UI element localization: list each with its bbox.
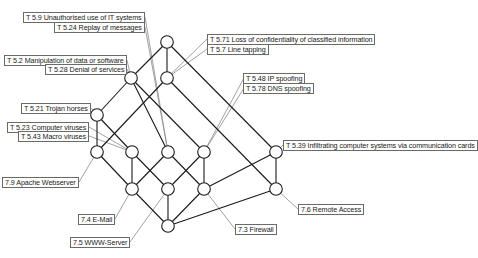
component-leader-line: [79, 157, 94, 182]
lattice-node: [162, 220, 175, 233]
lattice-node: [198, 183, 211, 196]
lattice-node: [126, 183, 139, 196]
lattice-node: [270, 183, 283, 196]
lattice-node: [161, 36, 174, 49]
lattice-node: [162, 146, 175, 159]
lattice-node: [91, 146, 104, 159]
lattice-edge: [97, 152, 132, 189]
threat-label: T 5.7 Line tapping: [207, 44, 269, 55]
component-label: 7.4 E-Mail: [78, 214, 115, 225]
threat-label: T 5.43 Macro viruses: [18, 131, 89, 142]
lattice-node: [162, 183, 175, 196]
lattice-edge: [167, 42, 276, 152]
component-label: 7.9 Apache Webserver: [2, 177, 79, 188]
component-leader-line: [115, 194, 129, 219]
lattice-edge: [97, 78, 167, 152]
component-leader-line: [130, 194, 164, 242]
threat-label: T 5.39 Infiltrating computer systems via…: [283, 140, 478, 151]
component-label: 7.5 WWW-Server: [70, 237, 130, 248]
lattice-edge: [97, 78, 131, 115]
lattice-node: [126, 146, 139, 159]
lattice-node: [91, 109, 104, 122]
threat-label: T 5.21 Trojan horses: [21, 103, 91, 114]
lattice-edge: [131, 78, 168, 152]
threat-label: T 5.78 DNS spoofing: [243, 83, 314, 94]
lattice-edge: [204, 152, 276, 189]
lattice-edge: [132, 189, 168, 226]
component-label: 7.3 Firewall: [235, 224, 277, 235]
threat-leader-line: [172, 39, 207, 74]
component-label: 7.6 Remote Access: [298, 204, 364, 215]
lattice-node: [270, 146, 283, 159]
component-leader-line: [281, 193, 298, 209]
lattice-edge: [167, 78, 276, 189]
lattice-node: [198, 146, 211, 159]
lattice-node: [161, 72, 174, 85]
lattice-edge: [168, 189, 204, 226]
threat-label: T 5.28 Denial of services: [45, 64, 127, 75]
lattice-edge: [131, 78, 204, 152]
lattice-edge: [168, 189, 276, 226]
threat-label: T 5.24 Replay of messages: [54, 22, 145, 33]
